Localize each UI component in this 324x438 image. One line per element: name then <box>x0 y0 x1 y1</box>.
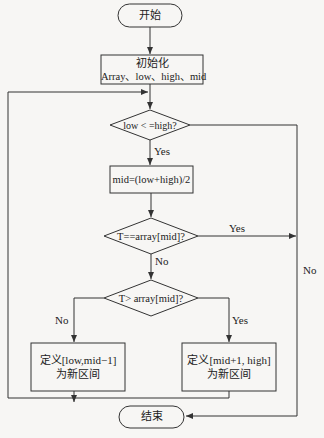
right-interval-line2: 为新区间 <box>182 368 276 381</box>
greater-condition-label: T> array[mid]? <box>104 292 198 305</box>
loop-yes-label: Yes <box>154 145 170 158</box>
left-interval-line1: 定义[low,mid−1] <box>31 354 125 367</box>
equal-no-label: No <box>155 255 168 268</box>
left-interval-line2: 为新区间 <box>31 368 125 381</box>
start-label: 开始 <box>118 9 182 22</box>
greater-no-label: No <box>55 314 68 327</box>
equal-yes-label: Yes <box>229 222 245 235</box>
compute-mid-label: mid=(low+high)/2 <box>110 173 193 186</box>
right-interval-box <box>182 343 276 391</box>
end-label: 结束 <box>119 410 184 423</box>
equal-condition-label: T==array[mid]? <box>104 230 198 243</box>
init-title: 初始化 <box>101 57 203 70</box>
greater-yes-label: Yes <box>232 314 248 327</box>
left-interval-box <box>31 343 125 391</box>
loop-condition-label: low < =high? <box>110 119 190 132</box>
right-interval-line1: 定义[mid+1, high] <box>182 354 276 367</box>
init-vars: Array、low、high、mid <box>101 70 203 83</box>
loop-no-label: No <box>303 264 316 277</box>
